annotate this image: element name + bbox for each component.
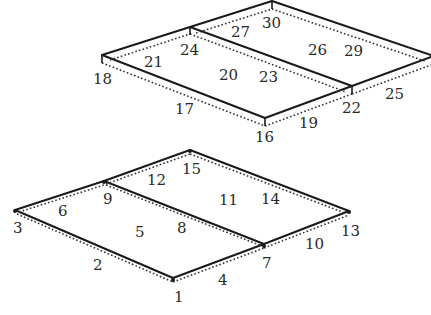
label-14: 14 [261, 190, 280, 208]
member-25-top [352, 57, 431, 86]
label-10: 10 [305, 235, 324, 253]
label-20: 20 [219, 66, 238, 84]
label-27: 27 [231, 23, 250, 41]
label-18: 18 [93, 70, 112, 88]
label-21: 21 [144, 53, 163, 71]
label-25: 25 [385, 85, 404, 103]
member-21-top [102, 27, 190, 55]
node-13 [347, 210, 351, 214]
label-11: 11 [219, 191, 238, 209]
label-16: 16 [255, 128, 274, 146]
label-29: 29 [344, 42, 363, 60]
label-24: 24 [180, 41, 199, 59]
label-13: 13 [341, 222, 360, 240]
top-structure: 18 16 17 19 22 25 21 20 23 24 27 30 26 2… [93, 1, 431, 146]
label-2: 2 [93, 256, 103, 274]
node-7 [262, 244, 266, 248]
node-15 [188, 149, 192, 153]
label-26: 26 [308, 41, 327, 59]
node-9 [102, 180, 106, 184]
label-22: 22 [342, 99, 361, 117]
label-30: 30 [262, 14, 281, 32]
node-1 [171, 278, 175, 282]
frame-diagram: 18 16 17 19 22 25 21 20 23 24 27 30 26 2… [0, 0, 431, 315]
label-4: 4 [218, 271, 228, 289]
label-19: 19 [299, 114, 318, 132]
label-17: 17 [175, 100, 194, 118]
bottom-structure: 3 1 2 4 7 10 13 6 9 5 8 12 15 11 14 [13, 149, 360, 306]
label-5: 5 [135, 223, 145, 241]
label-12: 12 [147, 171, 166, 189]
label-3: 3 [13, 219, 23, 237]
label-6: 6 [58, 202, 68, 220]
label-7: 7 [262, 254, 272, 272]
label-9: 9 [103, 190, 113, 208]
label-23: 23 [259, 68, 278, 86]
label-15: 15 [182, 160, 201, 178]
label-8: 8 [177, 219, 187, 237]
node-3 [13, 209, 17, 213]
label-1: 1 [174, 288, 184, 306]
